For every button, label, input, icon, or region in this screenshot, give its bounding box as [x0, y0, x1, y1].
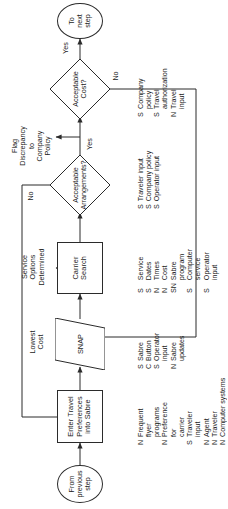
- data-list-acceptable-arrangements: STraveler inputSCompany policySOperator …: [120, 151, 178, 209]
- node-carrier-search: Carrier Search: [57, 242, 103, 294]
- data-list-code: S: [153, 201, 161, 209]
- node-enter-preferences-label: Enter Travel Preferences into Sabre: [67, 396, 92, 437]
- data-list-code: N: [203, 437, 211, 445]
- data-list-row: SSabre: [137, 333, 145, 369]
- node-start-label: From previous step: [68, 470, 93, 497]
- data-list-row: CButton: [145, 333, 153, 369]
- data-list-snap-table: SSabreCButtonSOperator inputNSabre updat…: [137, 333, 187, 369]
- data-list-carrier-search: SServiceSDatesNTimesNCostSNSabre program…: [120, 249, 227, 293]
- node-snap-label: SNAP: [55, 318, 105, 370]
- data-list-text: Operator input: [203, 249, 220, 280]
- node-carrier-search-label: Carrier Search: [72, 256, 89, 280]
- data-list-code: S: [186, 280, 203, 293]
- data-list-text: Company policy: [137, 68, 154, 109]
- data-list-text: Dates: [145, 249, 153, 280]
- data-list-row: SOperator input: [153, 333, 170, 369]
- data-list-row: SCompany policy: [145, 151, 153, 209]
- data-list-code: SN: [170, 280, 187, 293]
- edge-label-arrangements-no: No: [27, 188, 35, 204]
- data-list-code: S: [153, 109, 170, 117]
- data-list-code: S: [137, 201, 145, 209]
- data-list-code: N: [161, 280, 169, 293]
- data-list-code: S: [137, 109, 154, 117]
- data-list-snap: SSabreCButtonSOperator inputNSabre updat…: [120, 333, 203, 369]
- data-list-row: NTraveler: [211, 366, 219, 445]
- edge-label-service-options: Service Options Determined: [21, 241, 46, 293]
- data-list-code: S: [137, 361, 145, 369]
- data-list-row: STravel authorization: [153, 68, 170, 117]
- data-list-row: SDates: [145, 249, 153, 293]
- edge-label-arrangements-yes: Yes: [86, 135, 94, 153]
- data-list-text: Button: [145, 333, 153, 361]
- data-list-code: S: [203, 280, 220, 293]
- data-list-acceptable-arrangements-body: STraveler inputSCompany policySOperator …: [137, 151, 162, 209]
- node-acceptable-cost-label: Acceptable Cost?: [72, 71, 89, 107]
- data-list-text: Sabre updates: [170, 333, 187, 361]
- data-list-text: Travel authorization: [153, 68, 170, 109]
- data-list-text: Frequent flyer programs: [137, 366, 162, 437]
- data-list-row: NFrequent flyer programs: [137, 366, 162, 445]
- data-list-text: Computer service: [186, 249, 203, 280]
- data-list-text: Sabre program: [170, 249, 187, 280]
- data-list-enter-preferences: NFrequent flyer programsNPreference for …: [120, 366, 227, 445]
- data-list-row: NComputer systems: [219, 366, 227, 445]
- data-list-text: Traveler input: [137, 151, 145, 201]
- data-list-code: S: [145, 280, 153, 293]
- data-list-acceptable-arrangements-table: STraveler inputSCompany policySOperator …: [137, 151, 162, 209]
- data-list-row: SService: [137, 249, 145, 293]
- data-list-code: N: [153, 280, 161, 293]
- data-list-snap-body: SSabreCButtonSOperator inputNSabre updat…: [137, 333, 187, 369]
- data-list-text: Traveler input: [186, 366, 203, 437]
- edge-label-flag-discrepancy: Flag Discrepancy to Company Policy: [11, 116, 52, 176]
- data-list-row: NTravel input: [170, 68, 187, 117]
- data-list-text: Service: [137, 249, 145, 280]
- data-list-row: NPreference for carrier: [161, 366, 186, 445]
- data-list-row: NAgent: [203, 366, 211, 445]
- node-start: From previous step: [57, 465, 103, 503]
- data-list-carrier-search-table: SServiceSDatesNTimesNCostSNSabre program…: [137, 249, 220, 293]
- data-list-code: N: [161, 437, 186, 445]
- edge-label-cost-yes: Yes: [62, 39, 70, 57]
- data-list-row: SCompany policy: [137, 68, 154, 117]
- data-list-text: Operator input: [153, 333, 170, 361]
- data-list-text: Company policy: [145, 151, 153, 201]
- data-list-code: N: [170, 361, 187, 369]
- node-end: To next step: [57, 3, 103, 39]
- node-acceptable-arrangements: Acceptable Arrangements?: [50, 155, 110, 215]
- data-list-acceptable-cost-table: SCompany policySTravel authorizationNTra…: [137, 68, 187, 117]
- data-list-enter-preferences-table: NFrequent flyer programsNPreference for …: [137, 366, 228, 445]
- data-list-code: N: [219, 437, 227, 445]
- data-list-row: SComputer service: [186, 249, 203, 293]
- data-list-code: S: [137, 280, 145, 293]
- edge-label-lowest-cost: Lowest Cost: [29, 325, 46, 359]
- node-snap: SNAP: [55, 318, 105, 370]
- data-list-code: S: [186, 437, 203, 445]
- data-list-row: NSabre updates: [170, 333, 187, 369]
- data-list-row: STraveler input: [137, 151, 145, 209]
- data-list-code: N: [137, 437, 162, 445]
- data-list-row: SOperator input: [153, 151, 161, 209]
- flowchart-canvas: From previous step Enter Travel Preferen…: [0, 0, 227, 509]
- data-list-row: NCost: [161, 249, 169, 293]
- data-list-code: C: [145, 361, 153, 369]
- data-list-code: N: [170, 109, 187, 117]
- data-list-text: Preference for carrier: [161, 366, 186, 437]
- node-end-label: To next step: [68, 14, 93, 28]
- node-enter-preferences: Enter Travel Preferences into Sabre: [57, 390, 103, 443]
- data-list-text: Travel input: [170, 68, 187, 109]
- flowchart-stage: From previous step Enter Travel Preferen…: [0, 0, 227, 509]
- node-acceptable-cost: Acceptable Cost?: [50, 59, 110, 119]
- data-list-text: Traveler: [211, 366, 219, 437]
- data-list-text: Computer systems: [219, 366, 227, 437]
- data-list-enter-preferences-body: NFrequent flyer programsNPreference for …: [137, 366, 228, 445]
- data-list-text: Agent: [203, 366, 211, 437]
- data-list-row: STraveler input: [186, 366, 203, 445]
- data-list-code: S: [145, 201, 153, 209]
- data-list-row: NTimes: [153, 249, 161, 293]
- node-acceptable-arrangements-label: Acceptable Arrangements?: [72, 160, 89, 209]
- data-list-acceptable-cost-body: SCompany policySTravel authorizationNTra…: [137, 68, 187, 117]
- data-list-code: N: [211, 437, 219, 445]
- data-list-text: Sabre: [137, 333, 145, 361]
- data-list-text: Operator input: [153, 151, 161, 201]
- data-list-row: SOperator input: [203, 249, 220, 293]
